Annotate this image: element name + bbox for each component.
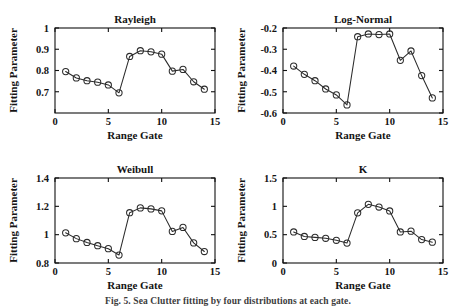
x-tick-label: 5 <box>106 116 111 127</box>
x-axis-label: Range Gate <box>107 129 162 141</box>
y-tick-label: 0.8 <box>36 65 49 76</box>
subplot-k-svg: 05101500.511.5KRange GateFitting Paramet… <box>228 152 456 304</box>
x-tick-label: 0 <box>52 266 57 277</box>
y-axis-label: Fitting Parameter <box>7 178 19 263</box>
y-axis-label: Fitting Parameter <box>7 28 19 113</box>
y-axis-label: Fitting Parameter <box>235 28 247 113</box>
x-tick-label: 10 <box>384 116 395 127</box>
data-series-line <box>66 51 205 93</box>
subplot-rayleigh-svg: 0510150.70.80.91RayleighRange GateFittin… <box>0 2 228 154</box>
x-tick-label: 15 <box>210 116 221 127</box>
data-series-line <box>294 204 433 243</box>
x-tick-label: 0 <box>52 116 57 127</box>
subplot-log-normal: 051015-0.6-0.5-0.4-0.3-0.2Log-NormalRang… <box>228 2 456 154</box>
y-tick-label: 1 <box>44 229 49 240</box>
subplot-rayleigh: 0510150.70.80.91RayleighRange GateFittin… <box>0 2 228 154</box>
y-tick-label: 0 <box>272 258 277 269</box>
y-tick-label: -0.3 <box>260 44 277 55</box>
y-tick-label: 0.5 <box>264 229 277 240</box>
y-tick-label: 0.7 <box>36 87 49 98</box>
y-axis-label: Fitting Parameter <box>235 178 247 263</box>
x-tick-label: 15 <box>438 116 449 127</box>
subplot-k: 05101500.511.5KRange GateFitting Paramet… <box>228 152 456 304</box>
x-axis-label: Range Gate <box>335 279 390 291</box>
subplot-title: K <box>359 163 368 175</box>
x-tick-label: 15 <box>438 266 449 277</box>
x-tick-label: 5 <box>106 266 111 277</box>
y-tick-label: -0.5 <box>260 87 277 98</box>
x-tick-label: 5 <box>334 266 339 277</box>
y-tick-label: 1.5 <box>264 173 277 184</box>
y-tick-label: -0.6 <box>260 108 277 119</box>
x-tick-label: 10 <box>156 116 167 127</box>
x-tick-label: 0 <box>280 266 285 277</box>
data-series-line <box>66 208 205 255</box>
y-tick-label: 0.9 <box>36 44 49 55</box>
subplot-log-normal-svg: 051015-0.6-0.5-0.4-0.3-0.2Log-NormalRang… <box>228 2 456 154</box>
x-tick-label: 10 <box>156 266 167 277</box>
y-tick-label: 1 <box>272 201 277 212</box>
x-tick-label: 10 <box>384 266 395 277</box>
figure-sea-clutter-fitting: 0510150.70.80.91RayleighRange GateFittin… <box>0 0 456 307</box>
figure-caption: Fig. 5. Sea Clutter fitting by four dist… <box>0 296 456 307</box>
y-tick-label: -0.4 <box>260 65 277 76</box>
x-tick-label: 0 <box>280 116 285 127</box>
subplot-title: Weibull <box>117 163 154 175</box>
data-series-line <box>294 34 433 105</box>
x-axis-label: Range Gate <box>335 129 390 141</box>
y-tick-label: 0.8 <box>36 258 49 269</box>
subplot-title: Log-Normal <box>334 13 392 25</box>
x-axis-label: Range Gate <box>107 279 162 291</box>
y-tick-label: -0.2 <box>260 23 277 34</box>
y-tick-label: 1.2 <box>36 201 49 212</box>
subplot-title: Rayleigh <box>114 13 156 25</box>
subplot-weibull-svg: 0510150.811.21.4WeibullRange GateFitting… <box>0 152 228 304</box>
x-tick-label: 15 <box>210 266 221 277</box>
y-tick-label: 1 <box>44 23 49 34</box>
subplot-weibull: 0510150.811.21.4WeibullRange GateFitting… <box>0 152 228 304</box>
x-tick-label: 5 <box>334 116 339 127</box>
y-tick-label: 1.4 <box>36 173 50 184</box>
